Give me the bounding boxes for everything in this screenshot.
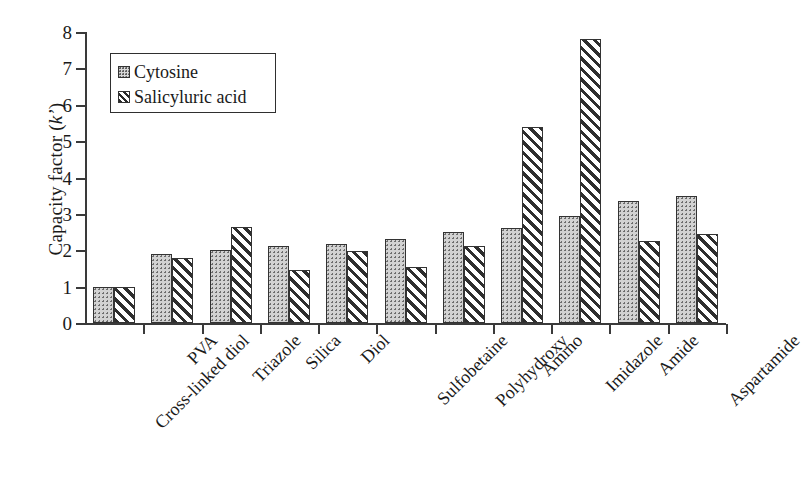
y-axis-line <box>85 32 87 324</box>
y-axis-tick <box>76 287 85 289</box>
bar-cytosine <box>268 246 289 323</box>
bar-salicyluric-acid <box>522 127 543 323</box>
legend-label-salicyluric-acid: Salicyluric acid <box>134 88 246 106</box>
y-axis-tick <box>76 32 85 34</box>
bar-cytosine <box>559 216 580 323</box>
y-axis-tick-label: 8 <box>63 23 73 42</box>
x-axis-label-amide: Amide <box>654 331 701 378</box>
y-axis-tick <box>76 105 85 107</box>
x-axis-label-diol: Diol <box>358 331 393 366</box>
bar-group <box>618 32 660 323</box>
y-axis-tick <box>76 68 85 70</box>
hatched-swatch-icon <box>118 91 130 103</box>
bar-cytosine <box>326 244 347 323</box>
y-axis-tick <box>76 323 85 325</box>
y-axis-tick-label: 6 <box>63 95 73 114</box>
y-axis-tick <box>76 178 85 180</box>
dotted-swatch-icon <box>118 66 130 78</box>
bar-cytosine <box>210 250 231 323</box>
y-axis-tick <box>76 141 85 143</box>
x-axis-label-silica: Silica <box>302 331 344 373</box>
y-axis-tick-label: 4 <box>63 168 73 187</box>
x-axis-label-aspartamide: Aspartamide <box>725 331 803 409</box>
legend-item-cytosine: Cytosine <box>118 59 268 84</box>
bar-group <box>326 32 368 323</box>
y-axis-tick-label: 1 <box>63 277 73 296</box>
bar-salicyluric-acid <box>697 234 718 323</box>
bar-cytosine <box>618 201 639 323</box>
bar-group <box>385 32 427 323</box>
bar-salicyluric-acid <box>347 251 368 323</box>
bar-salicyluric-acid <box>406 267 427 323</box>
bar-salicyluric-acid <box>580 39 601 323</box>
y-axis-tick-label: 3 <box>63 204 73 223</box>
legend-item-salicyluric-acid: Salicyluric acid <box>118 84 268 109</box>
legend-label-cytosine: Cytosine <box>134 63 198 81</box>
bar-salicyluric-acid <box>639 241 660 323</box>
bar-cytosine <box>93 287 114 323</box>
bar-salicyluric-acid <box>289 270 310 323</box>
y-axis-tick-label: 2 <box>63 241 73 260</box>
bar-salicyluric-acid <box>231 227 252 323</box>
x-axis-category-labels: Cross-linked diolPVATriazoleSilicaDiolSu… <box>85 331 747 477</box>
bar-cytosine <box>501 228 522 323</box>
x-axis-label-triazole: Triazole <box>249 331 304 386</box>
bar-cytosine <box>676 196 697 323</box>
bar-salicyluric-acid <box>172 258 193 323</box>
bar-cytosine <box>151 254 172 323</box>
bar-salicyluric-acid <box>464 246 485 323</box>
bar-salicyluric-acid <box>114 287 135 323</box>
bar-cytosine <box>385 239 406 323</box>
bar-group <box>501 32 543 323</box>
bar-group <box>443 32 485 323</box>
y-axis-tick <box>76 214 85 216</box>
chart-legend: Cytosine Salicyluric acid <box>110 53 276 113</box>
y-axis-tick-label: 7 <box>63 59 73 78</box>
bar-group <box>676 32 718 323</box>
y-axis-tick <box>76 250 85 252</box>
y-axis-tick-label: 0 <box>63 314 73 333</box>
bar-group <box>559 32 601 323</box>
bar-cytosine <box>443 232 464 323</box>
y-axis-tick-label: 5 <box>63 132 73 151</box>
x-axis-line <box>85 323 726 325</box>
